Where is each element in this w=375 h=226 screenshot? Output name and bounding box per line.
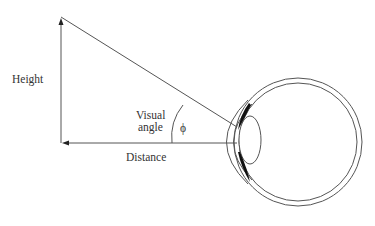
visual-angle-diagram: Height Visual angle ϕ Distance <box>0 0 375 226</box>
visual-angle-label-line1: Visual <box>136 109 165 121</box>
distance-label: Distance <box>126 151 166 163</box>
visual-angle-label-line2: angle <box>138 121 163 134</box>
eye-illustration <box>227 78 363 206</box>
height-arrow <box>59 18 64 143</box>
phi-symbol: ϕ <box>180 122 186 135</box>
height-label: Height <box>12 73 44 86</box>
distance-arrow <box>62 141 237 146</box>
